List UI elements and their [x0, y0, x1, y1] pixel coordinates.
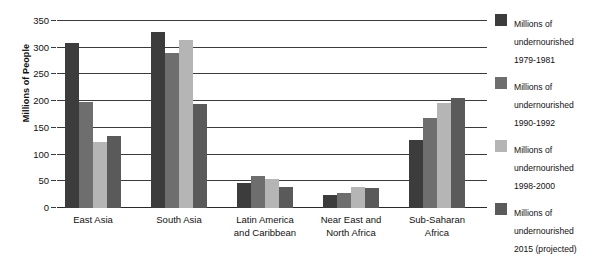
bar [423, 118, 437, 208]
legend-color-swatch [495, 203, 507, 215]
legend-color-swatch [495, 77, 507, 89]
bar [165, 53, 179, 208]
bar [107, 136, 121, 208]
y-tick-mark [51, 20, 56, 21]
y-axis-title: Millions of People [21, 13, 31, 153]
y-tick-mark [51, 207, 56, 208]
bar [79, 102, 93, 208]
bar-group [65, 21, 121, 208]
y-tick-label: 250 [33, 68, 49, 79]
y-tick-mark [51, 127, 56, 128]
legend-item[interactable]: Millions ofundernourished1979-1981 [495, 13, 595, 67]
x-axis-labels: East AsiaSouth AsiaLatin Americaand Cari… [57, 214, 487, 248]
chart-legend: Millions ofundernourished1979-1981Millio… [495, 13, 595, 258]
bar [251, 176, 265, 208]
y-tick-label: 100 [33, 148, 49, 159]
bar [437, 103, 451, 208]
bar [323, 195, 337, 208]
legend-label: Millions ofundernourished1979-1981 [514, 19, 574, 65]
y-tick-mark [51, 100, 56, 101]
y-tick-label: 300 [33, 41, 49, 52]
y-tick-label: 50 [38, 175, 49, 186]
bar [337, 193, 351, 208]
bar [265, 179, 279, 208]
bar [151, 32, 165, 208]
legend-color-swatch [495, 14, 507, 26]
bar-group [237, 21, 293, 208]
y-tick-label: 350 [33, 15, 49, 26]
bar [451, 98, 465, 208]
bar [351, 187, 365, 208]
y-tick-label: 0 [44, 202, 49, 213]
y-tick-label: 200 [33, 95, 49, 106]
bar [365, 188, 379, 208]
bar [409, 140, 423, 208]
plot-area: 050100150200250300350 [57, 21, 487, 208]
x-axis-label: Sub-SaharanAfrica [382, 214, 492, 239]
legend-item[interactable]: Millions ofundernourished1990-1992 [495, 76, 595, 130]
y-tick-mark [51, 154, 56, 155]
bar [193, 104, 207, 208]
bar [65, 43, 79, 208]
bar-group [151, 21, 207, 208]
bar [179, 40, 193, 208]
bar-group [409, 21, 465, 208]
bar [93, 142, 107, 208]
legend-label: Millions ofundernourished1998-2000 [514, 145, 574, 191]
bar-group [323, 21, 379, 208]
legend-item[interactable]: Millions ofundernourished2015 (projected… [495, 202, 595, 256]
bar-series-container [57, 21, 487, 208]
y-tick-mark [51, 47, 56, 48]
bar [279, 187, 293, 208]
bar [237, 183, 251, 208]
legend-label: Millions ofundernourished1990-1992 [514, 82, 574, 128]
legend-label: Millions ofundernourished2015 (projected… [514, 208, 577, 254]
y-tick-label: 150 [33, 121, 49, 132]
y-tick-mark [51, 180, 56, 181]
legend-color-swatch [495, 140, 507, 152]
y-tick-mark [51, 73, 56, 74]
legend-item[interactable]: Millions ofundernourished1998-2000 [495, 139, 595, 193]
